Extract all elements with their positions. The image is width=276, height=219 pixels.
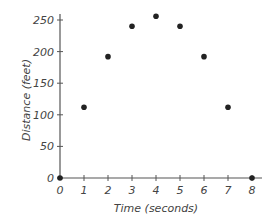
data-point bbox=[153, 13, 159, 19]
y-tick-label: 250 bbox=[33, 14, 54, 27]
y-tick-label: 0 bbox=[47, 172, 54, 185]
data-points bbox=[57, 13, 255, 180]
x-axis: 012345678 bbox=[57, 175, 263, 197]
x-axis-title: Time (seconds) bbox=[114, 202, 198, 215]
x-tick-label: 0 bbox=[57, 184, 64, 197]
data-point bbox=[225, 104, 231, 110]
data-point bbox=[249, 175, 255, 181]
x-tick-label: 2 bbox=[105, 184, 112, 197]
data-point bbox=[201, 54, 207, 60]
x-tick-label: 6 bbox=[201, 184, 208, 197]
y-axis: 050100150200250 bbox=[33, 14, 63, 185]
data-point bbox=[177, 24, 183, 30]
data-point bbox=[129, 24, 135, 30]
x-tick-label: 3 bbox=[129, 184, 136, 197]
y-tick-label: 150 bbox=[33, 77, 54, 90]
x-tick-label: 4 bbox=[153, 184, 160, 197]
data-point bbox=[105, 54, 111, 60]
x-tick-label: 8 bbox=[249, 184, 256, 197]
y-tick-label: 50 bbox=[40, 140, 54, 153]
y-tick-label: 200 bbox=[33, 46, 54, 59]
x-tick-label: 7 bbox=[225, 184, 232, 197]
x-tick-label: 1 bbox=[81, 184, 88, 197]
data-point bbox=[57, 175, 63, 181]
x-tick-label: 5 bbox=[177, 184, 184, 197]
y-axis-title: Distance (feet) bbox=[20, 59, 33, 141]
scatter-chart: 050100150200250 012345678 Distance (feet… bbox=[0, 0, 276, 219]
y-tick-label: 100 bbox=[33, 109, 54, 122]
data-point bbox=[81, 104, 87, 110]
